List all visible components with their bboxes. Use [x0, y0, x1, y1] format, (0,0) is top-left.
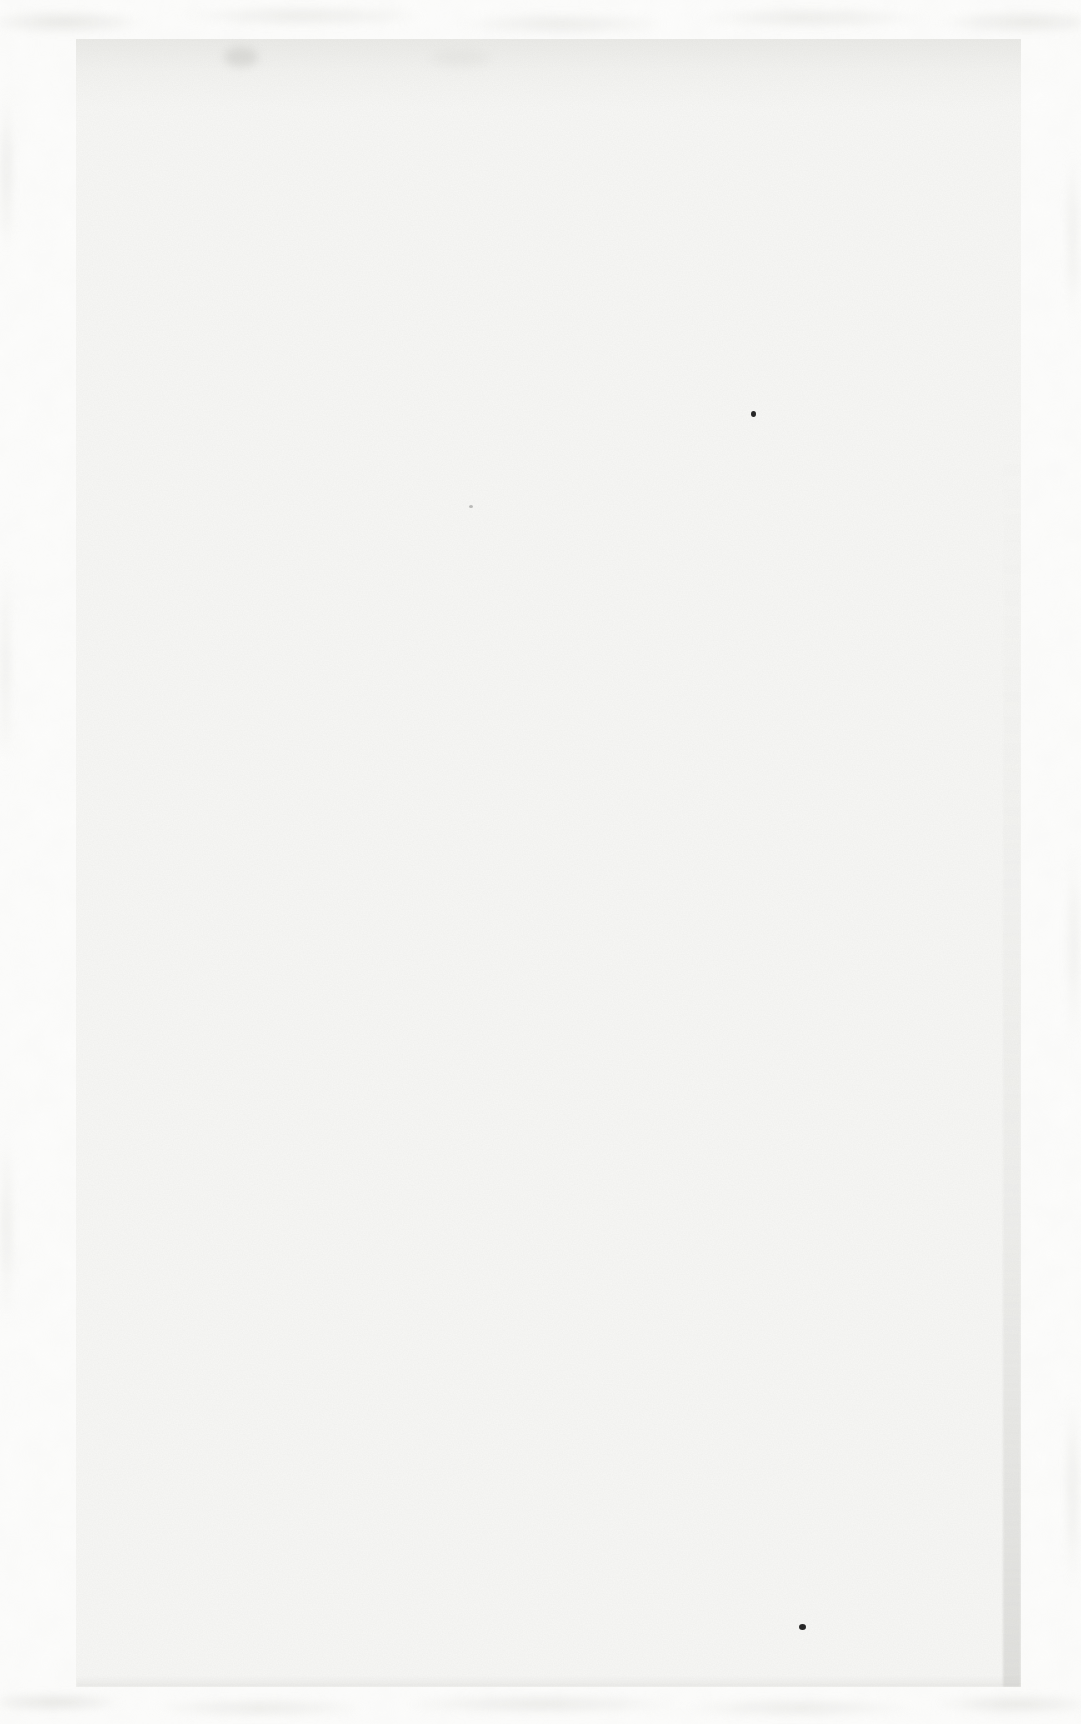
scan-root	[0, 0, 1081, 1724]
scanned-page	[76, 39, 1021, 1687]
page-bottom-edge-shadow	[76, 1677, 1021, 1687]
page-right-edge-shadow	[1003, 39, 1021, 1687]
paper-grain-texture	[76, 39, 1021, 1687]
fine-grain-rect	[76, 39, 1021, 1687]
